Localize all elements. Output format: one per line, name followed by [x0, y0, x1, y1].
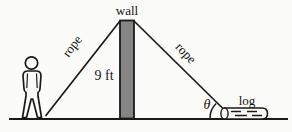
wall-height-label: 9 ft: [94, 69, 113, 83]
angle-theta-label: θ: [204, 98, 211, 112]
log-end: [221, 108, 228, 119]
wall-label: wall: [116, 4, 138, 17]
log-shape: [221, 108, 268, 119]
diagram-figure: [0, 0, 292, 132]
diagram-canvas: wall rope rope 9 ft θ log: [0, 0, 292, 132]
angle-arc: [210, 104, 216, 119]
person-body: [23, 71, 42, 118]
person-figure: [23, 57, 42, 118]
rope-right-line: [134, 21, 228, 114]
wall-shape: [120, 21, 134, 119]
log-body: [225, 108, 268, 119]
log-label: log: [239, 94, 256, 107]
person-head: [25, 57, 37, 69]
